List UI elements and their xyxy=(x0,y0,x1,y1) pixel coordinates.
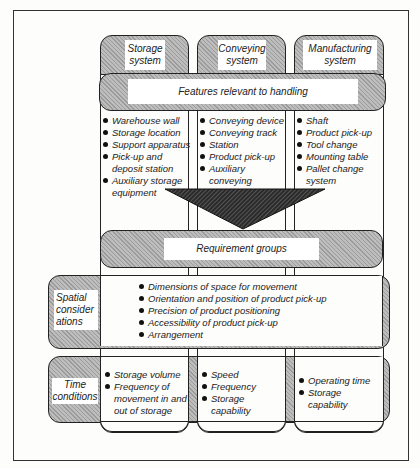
list-item: Accessibility of product pick-up xyxy=(139,317,379,329)
list-item: Station xyxy=(200,139,284,151)
features-band: Features relevant to handling xyxy=(99,73,386,111)
list-item: Conveying track xyxy=(200,127,284,139)
spatial-items-list: Dimensions of space for movement Orienta… xyxy=(139,281,379,341)
list-item: Precision of product positioning xyxy=(139,305,379,317)
requirement-groups-band: Requirement groups xyxy=(100,230,383,268)
list-item: Storage location xyxy=(103,127,193,139)
storage-time-list: Storage volume Frequency of movement in … xyxy=(105,369,187,417)
list-item: Storage capability xyxy=(202,393,286,417)
list-item: Frequency of movement in and out of stor… xyxy=(105,381,187,417)
conveying-time-list: Speed Frequency Storage capability xyxy=(202,369,286,417)
list-item: Storage capability xyxy=(299,387,383,411)
list-item: Dimensions of space for movement xyxy=(139,281,379,293)
features-band-label: Features relevant to handling xyxy=(128,79,358,104)
list-item: Shaft xyxy=(297,115,383,127)
list-item: Orientation and position of product pick… xyxy=(139,293,379,305)
header-conveying: Conveying system xyxy=(197,35,286,75)
header-storage: Storage system xyxy=(100,35,189,75)
conveying-features-list: Conveying device Conveying track Station… xyxy=(200,115,284,199)
storage-features-list: Warehouse wall Storage location Support … xyxy=(103,115,193,199)
list-item: Speed xyxy=(202,369,286,381)
list-item: Operating time xyxy=(299,375,383,387)
list-item: Mounting table xyxy=(297,151,383,163)
list-item: Pick-up and deposit station xyxy=(103,151,193,175)
list-item: Conveying device xyxy=(200,115,284,127)
list-item: Pallet change system xyxy=(297,163,383,187)
list-item: Tool change xyxy=(297,139,383,151)
list-item: Frequency xyxy=(202,381,286,393)
list-item: Support apparatus xyxy=(103,139,193,151)
header-conveying-label: Conveying system xyxy=(218,40,266,70)
list-item: Product pick-up xyxy=(297,127,383,139)
manufacturing-features-list: Shaft Product pick-up Tool change Mounti… xyxy=(297,115,383,187)
time-band-bottom-line xyxy=(100,421,384,422)
requirement-groups-label: Requirement groups xyxy=(164,238,319,260)
list-item: Product pick-up xyxy=(200,151,284,163)
list-item: Arrangement xyxy=(139,329,379,341)
header-manufacturing: Manufacturing system xyxy=(294,35,384,75)
time-label: Time conditions xyxy=(52,378,98,404)
manufacturing-time-list: Operating time Storage capability xyxy=(299,375,383,411)
list-item: Warehouse wall xyxy=(103,115,193,127)
header-storage-label: Storage system xyxy=(125,40,165,70)
list-item: Storage volume xyxy=(105,369,187,381)
header-manufacturing-label: Manufacturing system xyxy=(303,40,377,70)
spatial-label: Spatial consider ations xyxy=(54,290,98,330)
down-arrow-icon xyxy=(165,188,325,230)
